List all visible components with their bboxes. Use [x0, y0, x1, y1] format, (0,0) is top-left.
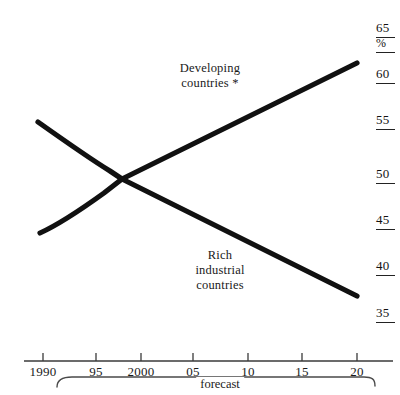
series-label-developing-line1: Developing [180, 61, 240, 75]
x-axis-label-1990: 1990 [30, 364, 57, 380]
x-axis-label-95: 95 [89, 364, 102, 380]
series-label-developing-line2: countries * [181, 76, 238, 90]
series-label-rich-line2: industrial [195, 263, 244, 277]
y-axis-tick-60: 60 [376, 66, 395, 84]
series-label-rich-industrial-countries: Rich industrial countries [158, 248, 282, 293]
y-axis-tick-35: 35 [376, 305, 395, 323]
x-axis-label-15: 15 [295, 364, 308, 380]
series-label-developing-countries: Developing countries * [148, 61, 272, 91]
y-axis-tick-40: 40 [376, 258, 395, 276]
x-axis-label-2000: 2000 [128, 364, 155, 380]
forecast-label: forecast [196, 377, 244, 392]
y-axis-unit-percent: % [376, 36, 395, 53]
y-axis-tick-50: 50 [376, 166, 395, 184]
y-axis-tick-55: 55 [376, 112, 395, 130]
x-axis-ticks [43, 353, 357, 361]
chart-plot-area [0, 0, 400, 395]
chart-page: 65 % 60 55 50 45 40 35 Developing countr… [0, 0, 400, 395]
x-axis-label-20: 20 [350, 364, 363, 380]
y-axis-tick-45: 45 [376, 212, 395, 230]
series-label-rich-line1: Rich [208, 248, 232, 262]
series-label-rich-line3: countries [196, 278, 244, 292]
